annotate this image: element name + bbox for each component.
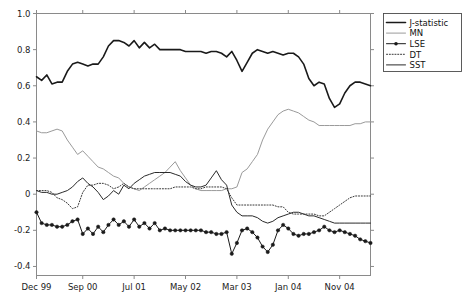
series-marker-lse xyxy=(117,223,120,226)
series-marker-lse xyxy=(127,225,130,228)
series-marker-lse xyxy=(199,229,202,232)
series-marker-lse xyxy=(60,225,63,228)
series-marker-lse xyxy=(71,220,74,223)
legend-label-lse: LSE xyxy=(410,39,426,49)
series-marker-lse xyxy=(153,221,156,224)
series-marker-lse xyxy=(189,229,192,232)
series-marker-lse xyxy=(297,234,300,237)
series-marker-lse xyxy=(343,230,346,233)
series-marker-lse xyxy=(281,223,284,226)
series-marker-lse xyxy=(353,234,356,237)
series-marker-lse xyxy=(210,230,213,233)
series-marker-lse xyxy=(86,227,89,230)
chart-container: 1.00.80.60.40.20-0.2-0.4Dec 99Sep 00Jul … xyxy=(0,0,465,306)
y-axis-tick-label: 0.8 xyxy=(17,45,31,55)
x-axis-tick-label: May 02 xyxy=(170,282,201,292)
y-axis-tick-label: 0.4 xyxy=(17,117,31,127)
series-marker-lse xyxy=(245,227,248,230)
series-marker-lse xyxy=(230,252,233,255)
series-marker-lse xyxy=(287,227,290,230)
series-marker-lse xyxy=(292,232,295,235)
series-marker-lse xyxy=(235,241,238,244)
series-marker-lse xyxy=(50,223,53,226)
line-chart: 1.00.80.60.40.20-0.2-0.4Dec 99Sep 00Jul … xyxy=(0,0,465,306)
series-marker-lse xyxy=(40,221,43,224)
series-line-sst xyxy=(37,171,371,223)
series-marker-lse xyxy=(220,232,223,235)
series-marker-lse xyxy=(112,218,115,221)
x-axis-tick-label: Jul 01 xyxy=(121,282,146,292)
series-marker-lse xyxy=(35,211,38,214)
series-marker-lse xyxy=(251,230,254,233)
series-marker-lse xyxy=(302,232,305,235)
series-marker-lse xyxy=(96,225,99,228)
series-marker-lse xyxy=(102,230,105,233)
series-marker-lse xyxy=(225,230,228,233)
series-marker-lse xyxy=(348,232,351,235)
legend-label-j-statistic: J-statistic xyxy=(409,18,449,28)
series-marker-lse xyxy=(143,221,146,224)
series-marker-lse xyxy=(174,229,177,232)
series-line-mn xyxy=(37,109,371,190)
y-axis-tick-label: 1.0 xyxy=(17,9,31,19)
series-marker-lse xyxy=(168,229,171,232)
series-marker-lse xyxy=(271,243,274,246)
series-marker-lse xyxy=(179,229,182,232)
series-line-dt xyxy=(37,183,371,216)
series-marker-lse xyxy=(215,232,218,235)
series-marker-lse xyxy=(163,227,166,230)
x-axis-tick-label: Sep 00 xyxy=(68,282,98,292)
series-marker-lse xyxy=(240,229,243,232)
series-marker-lse xyxy=(91,232,94,235)
y-axis-tick-label: -0.4 xyxy=(14,261,31,271)
series-marker-lse xyxy=(76,218,79,221)
series-marker-lse xyxy=(184,229,187,232)
series-marker-lse xyxy=(148,227,151,230)
series-marker-lse xyxy=(317,229,320,232)
series-marker-lse xyxy=(364,239,367,242)
series-marker-lse xyxy=(81,232,84,235)
series-marker-lse xyxy=(333,230,336,233)
series-marker-lse xyxy=(323,225,326,228)
series-marker-lse xyxy=(266,250,269,253)
series-marker-lse xyxy=(55,225,58,228)
series-marker-lse xyxy=(369,241,372,244)
series-marker-lse xyxy=(276,229,279,232)
series-marker-lse xyxy=(66,223,69,226)
x-axis-tick-label: Jan 04 xyxy=(274,282,302,292)
series-marker-lse xyxy=(122,220,125,223)
legend-label-dt: DT xyxy=(410,50,423,60)
series-line-j-statistic xyxy=(37,41,371,108)
legend-marker-lse xyxy=(394,42,398,46)
series-marker-lse xyxy=(307,232,310,235)
series-marker-lse xyxy=(158,229,161,232)
x-axis-tick-label: Nov 04 xyxy=(325,282,355,292)
series-marker-lse xyxy=(261,245,264,248)
series-marker-lse xyxy=(359,238,362,241)
series-marker-lse xyxy=(256,236,259,239)
series-marker-lse xyxy=(138,225,141,228)
series-marker-lse xyxy=(45,223,48,226)
series-marker-lse xyxy=(204,230,207,233)
x-axis-tick-label: Dec 99 xyxy=(22,282,52,292)
legend-label-sst: SST xyxy=(410,60,427,70)
series-marker-lse xyxy=(132,218,135,221)
y-axis-tick-label: 0 xyxy=(25,189,30,199)
y-axis-tick-label: 0.2 xyxy=(17,153,31,163)
series-marker-lse xyxy=(338,229,341,232)
y-axis-tick-label: -0.2 xyxy=(14,225,31,235)
series-marker-lse xyxy=(312,230,315,233)
legend-label-mn: MN xyxy=(410,28,424,38)
y-axis-tick-label: 0.6 xyxy=(17,81,31,91)
series-marker-lse xyxy=(194,229,197,232)
series-marker-lse xyxy=(328,229,331,232)
x-axis-tick-label: Mar 03 xyxy=(222,282,252,292)
series-marker-lse xyxy=(107,223,110,226)
